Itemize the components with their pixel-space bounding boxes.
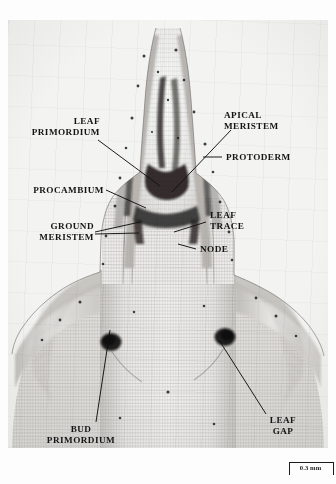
leader-ground-meristem-b xyxy=(95,233,139,234)
label-protoderm: PROTODERM xyxy=(226,152,322,163)
leader-node xyxy=(178,244,196,249)
leader-leaf-trace xyxy=(174,222,206,232)
label-bud-primordium: BUD PRIMORDIUM xyxy=(28,424,134,445)
leader-apical-meristem xyxy=(172,130,231,192)
leader-leaf-gap xyxy=(219,340,266,414)
leader-bud-primordium xyxy=(96,330,110,422)
leader-procambium xyxy=(106,190,146,208)
leader-ground-meristem-a xyxy=(95,222,140,232)
leader-leaf-primordium xyxy=(98,140,160,186)
label-leaf-primordium: LEAF PRIMORDIUM xyxy=(8,116,100,137)
label-leaf-trace: LEAF TRACE xyxy=(210,210,280,231)
label-apical-meristem: APICAL MERISTEM xyxy=(224,110,314,131)
label-leaf-gap: LEAF GAP xyxy=(256,415,310,436)
label-node: NODE xyxy=(200,244,256,255)
label-procambium: PROCAMBIUM xyxy=(6,185,104,196)
micrograph-figure: LEAF PRIMORDIUM APICAL MERISTEM PROTODER… xyxy=(0,0,336,484)
scale-bar-label: 0.3 mm xyxy=(289,464,332,471)
label-ground-meristem: GROUND MERISTEM xyxy=(10,221,94,242)
scale-bar: 0.3 mm xyxy=(289,462,332,476)
